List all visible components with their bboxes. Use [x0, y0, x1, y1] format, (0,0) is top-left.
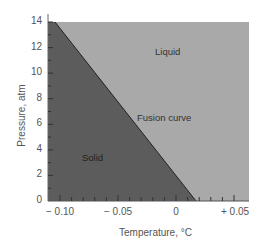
- y-tick-label: 8: [26, 92, 42, 103]
- phase-diagram-chart: 14 12 10 8 6 4 2 0 − 0.10 − 0.05 0 + 0.0…: [0, 0, 261, 246]
- y-tick-label: 14: [26, 15, 42, 26]
- x-tick-label: + 0.05: [221, 206, 249, 217]
- y-tick-label: 12: [26, 41, 42, 52]
- y-tick-label: 6: [26, 117, 42, 128]
- x-tick-label: − 0.10: [46, 206, 74, 217]
- liquid-label: Liquid: [155, 46, 180, 57]
- x-axis-label: Temperature, °C: [0, 227, 261, 238]
- x-tick-label: 0: [173, 206, 179, 217]
- solid-label: Solid: [82, 152, 103, 163]
- y-tick-label: 4: [26, 143, 42, 154]
- fusion-curve-label: Fusion curve: [137, 112, 191, 123]
- y-tick-label: 2: [26, 168, 42, 179]
- y-tick-label: 0: [26, 194, 42, 205]
- y-tick-label: 10: [26, 66, 42, 77]
- y-axis-label: Pressure, atm: [16, 81, 27, 151]
- x-tick-label: − 0.05: [104, 206, 132, 217]
